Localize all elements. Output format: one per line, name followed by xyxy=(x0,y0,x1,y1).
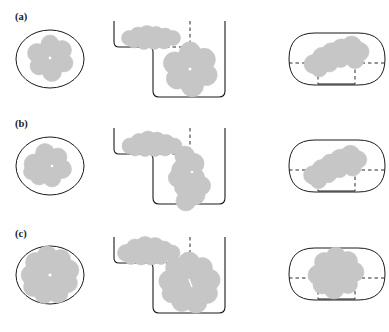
blob-center-dot xyxy=(51,165,54,168)
row-c-ellipse-panel xyxy=(16,246,84,304)
schematic-svg: (a) xyxy=(0,0,389,332)
row-label-c: (c) xyxy=(15,228,27,240)
row-b-step-well-panel xyxy=(114,128,225,211)
lower-level-blob xyxy=(159,252,220,313)
row-label-b: (b) xyxy=(15,118,28,130)
row-b: (b) xyxy=(15,118,385,211)
blob-shape xyxy=(304,145,367,188)
row-a-ellipse-panel xyxy=(16,30,84,88)
row-c-step-well-panel xyxy=(114,237,225,314)
upper-level-blob xyxy=(122,131,182,157)
blob-shape xyxy=(304,36,369,77)
lower-blob-center-dot xyxy=(189,68,192,71)
row-c: (c) xyxy=(15,228,385,313)
blob-shape xyxy=(308,247,364,299)
row-b-stadium-panel xyxy=(289,140,385,192)
blob-shape xyxy=(24,144,72,188)
row-a: (a) xyxy=(15,11,385,97)
row-a-step-well-panel xyxy=(114,21,225,97)
upper-level-blob xyxy=(122,26,181,50)
row-label-a: (a) xyxy=(15,11,28,23)
figure-canvas: (a) xyxy=(0,0,389,332)
row-b-ellipse-panel xyxy=(16,137,84,195)
lower-blob-center-dot xyxy=(191,171,194,174)
lower-level-blob xyxy=(168,146,210,211)
blob-center-dot xyxy=(48,273,51,276)
row-c-stadium-panel xyxy=(289,247,385,300)
row-a-stadium-panel xyxy=(289,33,385,85)
blob-center-dot xyxy=(49,57,52,60)
